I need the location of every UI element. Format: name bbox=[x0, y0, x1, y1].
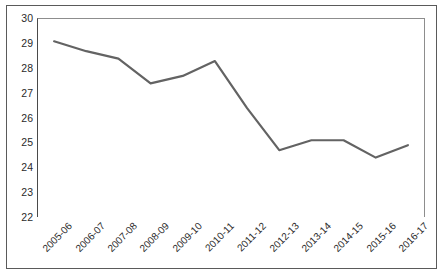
x-axis-tick-label: 2007-08 bbox=[106, 221, 139, 254]
x-axis-tick-label: 2013-14 bbox=[300, 221, 333, 254]
y-axis-tick-label: 28 bbox=[7, 63, 33, 74]
x-axis-tick-label: 2008-09 bbox=[138, 221, 171, 254]
x-axis-tick-label: 2010-11 bbox=[203, 221, 236, 254]
x-axis-tick-text: 2008-09 bbox=[138, 221, 171, 254]
plot-area bbox=[37, 18, 425, 217]
y-axis-tick-label: 23 bbox=[7, 187, 33, 198]
x-axis-tick-text: 2016-17 bbox=[397, 221, 430, 254]
y-axis-tick-label: 30 bbox=[7, 13, 33, 24]
x-axis-tick-text: 2012-13 bbox=[268, 221, 301, 254]
x-axis-tick-text: 2011-12 bbox=[236, 221, 269, 254]
line-series-svg bbox=[38, 19, 424, 217]
x-axis-tick-text: 2009-10 bbox=[171, 221, 204, 254]
x-axis-tick-label: 2011-12 bbox=[236, 221, 269, 254]
y-axis: 222324252627282930 bbox=[0, 18, 33, 217]
x-axis-tick-label: 2015-16 bbox=[365, 221, 398, 254]
x-axis-tick-text: 2007-08 bbox=[106, 221, 139, 254]
x-axis: 2005-062006-072007-082008-092009-102010-… bbox=[37, 217, 425, 273]
x-axis-tick-text: 2014-15 bbox=[332, 221, 365, 254]
x-axis-tick-text: 2013-14 bbox=[300, 221, 333, 254]
y-axis-tick-label: 24 bbox=[7, 162, 33, 173]
y-axis-tick-label: 22 bbox=[7, 212, 33, 223]
x-axis-tick-label: 2009-10 bbox=[171, 221, 204, 254]
x-axis-tick-label: 2005-06 bbox=[41, 221, 74, 254]
x-axis-tick-label: 2012-13 bbox=[268, 221, 301, 254]
x-axis-tick-label: 2006-07 bbox=[74, 221, 107, 254]
x-axis-tick-label: 2016-17 bbox=[397, 221, 430, 254]
chart-figure: 222324252627282930 2005-062006-072007-08… bbox=[0, 0, 444, 275]
x-axis-tick-text: 2005-06 bbox=[41, 221, 74, 254]
y-axis-tick-label: 27 bbox=[7, 87, 33, 98]
y-axis-tick-label: 29 bbox=[7, 38, 33, 49]
y-axis-tick-label: 26 bbox=[7, 112, 33, 123]
x-axis-tick-label: 2014-15 bbox=[332, 221, 365, 254]
y-axis-tick-label: 25 bbox=[7, 137, 33, 148]
x-axis-tick-text: 2010-11 bbox=[203, 221, 236, 254]
data-line bbox=[54, 41, 408, 157]
x-axis-tick-text: 2015-16 bbox=[365, 221, 398, 254]
x-axis-tick-text: 2006-07 bbox=[74, 221, 107, 254]
